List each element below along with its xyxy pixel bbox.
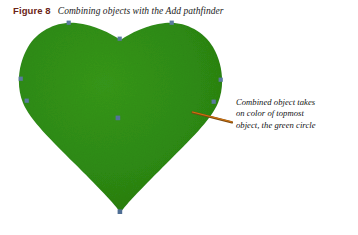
- annotation-line-2: on color of topmost: [236, 108, 358, 119]
- anchor-point-center-origin[interactable]: [116, 116, 121, 121]
- anchor-point-right-edge-upper[interactable]: [219, 78, 223, 82]
- heart-path: [19, 23, 222, 213]
- annotation-line-3: object, the green circle: [236, 120, 358, 131]
- heart-object[interactable]: [19, 23, 222, 213]
- anchor-point-right-edge-lower[interactable]: [212, 100, 216, 104]
- anchor-point-right-lobe-top[interactable]: [170, 21, 174, 25]
- annotation-line-1: Combined object takes: [236, 97, 358, 108]
- figure-container: Figure 8Combining objects with the Add p…: [0, 0, 358, 235]
- anchor-point-left-edge-lower[interactable]: [25, 99, 29, 103]
- anchor-point-left-edge-upper[interactable]: [19, 77, 23, 81]
- anchor-point-left-lobe-top[interactable]: [67, 21, 71, 25]
- anchor-point-cleft-center[interactable]: [118, 37, 122, 41]
- anchor-point-bottom-tip[interactable]: [118, 209, 123, 214]
- annotation-callout: Combined object takes on color of topmos…: [236, 97, 358, 131]
